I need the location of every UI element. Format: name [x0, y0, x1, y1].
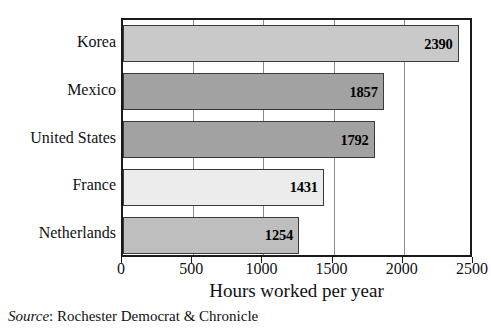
bar-row: 1254 — [123, 217, 474, 254]
bars-layer: 23901857179214311254 — [123, 20, 470, 255]
x-axis-title: Hours worked per year — [121, 281, 472, 300]
x-tick-label: 2500 — [442, 261, 491, 277]
category-label: Korea — [0, 34, 116, 50]
source-separator: : — [49, 308, 57, 324]
source-text: Rochester Democrat & Chronicle — [57, 308, 258, 324]
source-note: Source: Rochester Democrat & Chronicle — [8, 309, 258, 324]
category-label: United States — [0, 130, 116, 146]
plot-area: 23901857179214311254 — [121, 18, 472, 257]
bar-row: 1431 — [123, 169, 474, 206]
bar-value-label: 2390 — [424, 35, 452, 52]
bar[interactable]: 1431 — [123, 169, 324, 206]
bar-row: 1792 — [123, 121, 474, 158]
bar-value-label: 1254 — [265, 227, 293, 244]
bar[interactable]: 2390 — [123, 25, 459, 62]
x-tick-label: 500 — [161, 261, 221, 277]
x-tick-label: 1500 — [302, 261, 362, 277]
bar-chart: KoreaMexicoUnited StatesFranceNetherland… — [0, 0, 491, 333]
bar-row: 1857 — [123, 73, 474, 110]
source-label: Source — [8, 308, 49, 324]
bar-row: 2390 — [123, 25, 474, 62]
category-label: Netherlands — [0, 225, 116, 241]
x-tick-label: 0 — [91, 261, 151, 277]
x-tick-label: 2000 — [372, 261, 432, 277]
category-label: France — [0, 177, 116, 193]
bar[interactable]: 1792 — [123, 121, 375, 158]
category-label: Mexico — [0, 82, 116, 98]
bar[interactable]: 1857 — [123, 73, 384, 110]
bar-value-label: 1792 — [340, 131, 368, 148]
bar[interactable]: 1254 — [123, 217, 299, 254]
x-tick-label: 1000 — [231, 261, 291, 277]
bar-value-label: 1431 — [290, 179, 318, 196]
bar-value-label: 1857 — [350, 83, 378, 100]
